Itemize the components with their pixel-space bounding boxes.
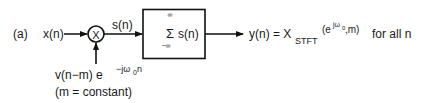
output-tail: for all n (372, 27, 411, 41)
output-arg-open: (e (322, 24, 331, 35)
stft-block-diagram: (a) x(n) X s(n) ∞ Σ −∞ s(n) y(n) = X STF… (0, 0, 426, 103)
sum-operand: s(n) (178, 27, 199, 41)
modulator-main: v(n−m) e (55, 68, 103, 82)
output-arg-exp: jω (332, 21, 341, 29)
output-subscript: STFT (295, 36, 318, 46)
multiplier-node: X (88, 26, 104, 42)
modulator-exponent: −jω (116, 64, 130, 74)
modulator-expression: v(n−m) e −jω 0 n (m = constant) (55, 64, 142, 99)
panel-label: (a) (13, 27, 28, 41)
output-lhs: y(n) = X (249, 27, 291, 41)
modulator-exponent-tail: n (137, 64, 142, 74)
sigma-icon: Σ (166, 26, 174, 41)
output-arg-close: ,m) (345, 24, 359, 35)
input-label: x(n) (43, 27, 64, 41)
sum-lower-limit: −∞ (161, 42, 170, 49)
product-label: s(n) (112, 18, 133, 32)
sum-upper-limit: ∞ (168, 11, 173, 18)
modulator-note: (m = constant) (55, 85, 132, 99)
summation-block: ∞ Σ −∞ s(n) (143, 10, 205, 59)
output-expression: y(n) = X STFT (e jω 0 ,m) for all n (249, 21, 411, 46)
multiply-icon: X (92, 29, 100, 41)
